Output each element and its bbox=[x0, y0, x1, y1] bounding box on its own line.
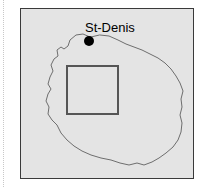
page-margin-dotted-rule bbox=[3, 0, 4, 187]
city-marker-dot bbox=[84, 36, 94, 46]
map-frame: St-Denis bbox=[20, 8, 194, 179]
study-area-rectangle bbox=[67, 66, 118, 114]
map-canvas: St-Denis bbox=[21, 9, 193, 178]
locator-map-figure: St-Denis bbox=[0, 0, 205, 187]
city-label-st-denis: St-Denis bbox=[85, 20, 135, 35]
